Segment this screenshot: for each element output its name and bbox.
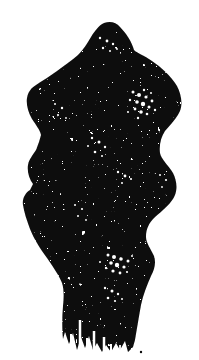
white-fleck: [121, 298, 123, 300]
white-fleck: [104, 287, 106, 289]
stray-ink-mark: [140, 351, 142, 353]
white-fleck: [139, 110, 143, 114]
white-fleck: [77, 215, 79, 217]
white-fleck: [119, 272, 122, 275]
white-fleck: [154, 109, 156, 111]
white-fleck: [116, 48, 118, 50]
white-fleck: [141, 102, 145, 106]
white-fleck: [134, 108, 137, 111]
white-fleck: [165, 179, 167, 181]
white-fleck: [98, 141, 101, 144]
white-fleck: [132, 91, 135, 94]
white-fleck: [161, 186, 163, 188]
specimen-silhouette: [23, 22, 182, 352]
white-fleck: [146, 113, 149, 116]
white-fleck: [129, 99, 131, 101]
stray-marks: [140, 351, 142, 353]
white-fleck: [117, 293, 119, 295]
white-fleck: [107, 297, 110, 300]
white-fleck: [99, 261, 101, 263]
white-fleck: [101, 155, 103, 157]
white-fleck: [127, 111, 129, 113]
white-fleck: [54, 103, 56, 105]
white-fleck: [99, 37, 101, 39]
white-fleck: [107, 254, 110, 257]
white-fleck: [87, 145, 89, 147]
white-fleck: [61, 107, 63, 109]
white-fleck: [144, 95, 147, 98]
white-fleck: [130, 178, 132, 180]
white-fleck: [74, 204, 76, 206]
specimen-figure: [0, 0, 199, 360]
white-fleck: [115, 263, 119, 267]
white-fleck: [81, 208, 83, 210]
white-fleck: [104, 146, 106, 148]
scanned-page: [0, 0, 199, 360]
white-fleck: [137, 93, 141, 97]
white-fleck: [143, 89, 145, 91]
white-fleck: [112, 255, 116, 259]
white-fleck: [91, 137, 93, 139]
white-fleck: [85, 219, 87, 221]
white-fleck: [117, 171, 119, 173]
white-fleck: [135, 100, 139, 104]
white-fleck: [124, 175, 127, 178]
white-fleck: [102, 47, 104, 49]
white-fleck: [94, 151, 97, 154]
white-fleck: [151, 100, 154, 103]
white-fleck: [106, 40, 109, 43]
white-fleck: [109, 50, 111, 52]
white-fleck: [122, 265, 125, 268]
white-fleck: [111, 269, 114, 272]
white-fleck: [148, 106, 151, 109]
white-fleck: [112, 43, 114, 45]
white-fleck: [131, 255, 133, 257]
white-fleck: [111, 290, 114, 293]
white-fleck: [109, 261, 113, 265]
white-fleck: [119, 257, 123, 261]
white-fleck: [150, 92, 152, 94]
white-fleck: [121, 182, 123, 184]
white-fleck: [114, 300, 116, 302]
white-fleck: [127, 260, 130, 263]
white-fleck: [57, 114, 59, 116]
white-fleck: [159, 174, 161, 176]
white-fleck: [65, 117, 67, 119]
white-fleck: [126, 271, 128, 273]
white-fleck: [137, 117, 139, 119]
white-fleck: [105, 267, 107, 269]
